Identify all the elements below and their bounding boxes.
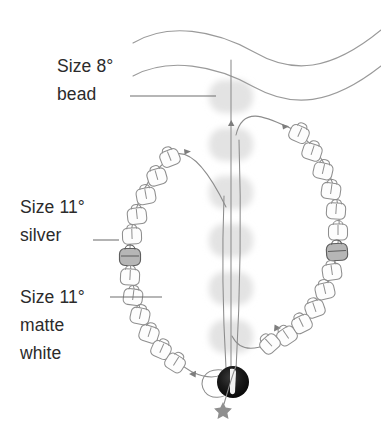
label-size-11-silver-line2: silver [20,225,62,245]
beading-diagram-canvas: Size 8° bead Size 11° silver Size 11° ma… [0,0,381,438]
arrow-left-loop [184,149,191,155]
top-thread-lower [133,65,381,100]
label-size-8-bead-line1: Size 8° [57,56,113,76]
focal-bead-group [202,366,249,404]
label-size-11-matte-white-line2: matte [20,315,64,335]
label-size-11-matte-white-line3: white [19,343,61,363]
right-chain-bead-8 [321,259,343,281]
label-size-11-matte-white: Size 11° matte white [19,287,85,363]
right-bead-loop [255,120,348,357]
label-size-11-matte-white-line1: Size 11° [20,287,85,307]
label-size-11-silver: Size 11° silver [20,197,85,245]
label-size-8-bead-line2: bead [57,84,96,104]
label-size-8-bead: Size 8° bead [57,56,113,104]
right-chain-bead-6 [329,221,348,241]
right-chain-bead-5 [326,199,346,220]
left-bead-loop [120,144,190,375]
label-size-11-silver-line1: Size 11° [20,197,85,217]
right-chain-bead-9 [313,278,336,301]
star-icon [214,402,232,419]
left-chain-bead-9 [129,303,152,326]
top-thread-curves [133,30,381,100]
left-chain-bead-7 [120,265,140,285]
top-thread-upper [133,30,381,66]
left-silver-bead [120,245,141,266]
left-chain-bead-8 [123,284,144,306]
arrow-center-up [228,120,234,126]
right-silver-bead [326,239,348,261]
left-chain-bead-1 [157,144,182,169]
star-marker [214,402,232,419]
right-chain-bead-4 [320,178,342,200]
right-chain-bead-1 [287,120,312,146]
beading-diagram: Size 8° bead Size 11° silver Size 11° ma… [0,0,381,438]
